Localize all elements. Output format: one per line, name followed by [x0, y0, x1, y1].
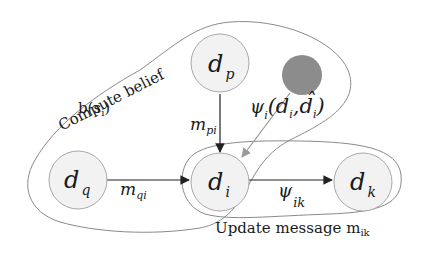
- edge-psi-i-label: ψi(di,d̂i): [250, 91, 325, 122]
- compute-belief-formula: b(si): [78, 99, 110, 118]
- edge-m-pi-label: mpi: [190, 114, 217, 137]
- node-observed: [282, 55, 322, 95]
- edge-psi-ik-label: ψik: [278, 180, 305, 210]
- update-message-label: Update message mik: [215, 219, 371, 238]
- edge-m-qi-label: mqi: [120, 179, 147, 202]
- compute-belief-label: Compute belief: [55, 65, 168, 134]
- svg-text:Compute belief: Compute belief: [55, 65, 168, 134]
- belief-propagation-diagram: dp dq di dk mpi mqi ψik ψi(di,d̂i) Compu…: [0, 0, 429, 261]
